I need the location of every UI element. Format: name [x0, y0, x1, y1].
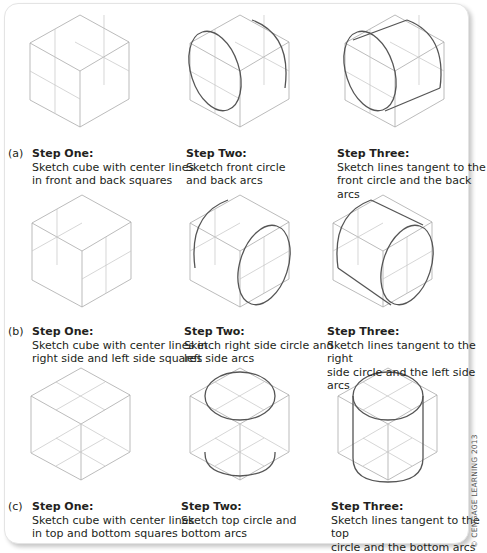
caption-b-step-two: Step Two: Sketch right side circle and l… [184, 325, 333, 366]
caption-a-step-one: (a) Step One: Sketch cube with center li… [32, 147, 194, 188]
sketch-b-step-two [190, 195, 299, 311]
sketch-a-step-one [30, 15, 129, 127]
copyright-notice: © CENGAGE LEARNING 2013 [470, 434, 479, 548]
sketch-a-step-three [335, 15, 444, 127]
sketch-c-step-two [190, 368, 289, 480]
caption-b-step-one: (b) Step One: Sketch cube with center li… [32, 325, 208, 366]
sketch-a-step-two [180, 15, 289, 127]
sketch-b-step-one [32, 195, 131, 307]
isometric-sketches [0, 0, 487, 553]
sketch-b-step-three [333, 195, 442, 311]
row-label-c: (c) [8, 500, 23, 514]
caption-c-step-two: Step Two: Sketch top circle and bottom a… [181, 500, 297, 541]
caption-b-step-three: Step Three: Sketch lines tangent to the … [327, 325, 487, 393]
caption-c-step-one: (c) Step One: Sketch cube with center li… [32, 500, 194, 541]
row-label-a: (a) [8, 147, 23, 161]
caption-a-step-two: Step Two: Sketch front circle and back a… [186, 147, 285, 188]
row-label-b: (b) [8, 325, 24, 339]
sketch-c-step-one [31, 368, 130, 480]
caption-c-step-three: Step Three: Sketch lines tangent to the … [331, 500, 487, 553]
caption-a-step-three: Step Three: Sketch lines tangent to the … [337, 147, 487, 201]
